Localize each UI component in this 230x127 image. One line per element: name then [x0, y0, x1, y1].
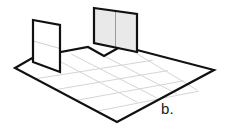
left-wall-panel: [33, 20, 60, 72]
back-wall-panel: [94, 8, 137, 52]
isometric-figure: b.: [0, 0, 230, 127]
isometric-drawing: [0, 0, 230, 127]
figure-label: b.: [161, 100, 174, 118]
